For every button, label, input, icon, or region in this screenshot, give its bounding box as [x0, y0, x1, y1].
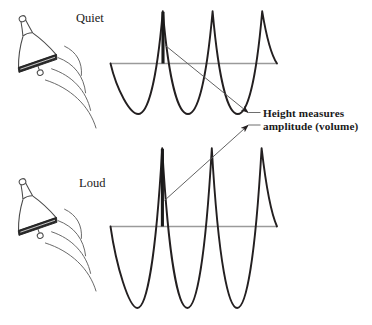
amplitude-callout-line1: Height measures: [263, 107, 358, 120]
diagram-artwork: [0, 0, 372, 325]
amplitude-callout: Height measures amplitude (volume): [263, 107, 358, 133]
quiet-label: Quiet: [76, 11, 104, 26]
loud-label: Loud: [79, 176, 105, 191]
loud-callout-arrow: [165, 125, 249, 200]
bell-clapper-ball-icon: [36, 232, 43, 239]
bell-handle-ring-icon: [18, 15, 26, 23]
bell-collar-icon: [22, 32, 33, 37]
bell-rim-highlight-icon: [20, 57, 55, 69]
figure-canvas: Quiet Loud Height measures amplitude (vo…: [0, 0, 372, 325]
bell-collar-icon: [22, 195, 33, 200]
bell-icon: [2, 9, 61, 82]
quiet-panel: [2, 9, 277, 128]
quiet-waveform: [111, 11, 278, 114]
loud-waveform: [111, 148, 278, 308]
bell-rim-highlight-icon: [20, 220, 55, 232]
bell-clapper-ball-icon: [36, 69, 43, 76]
loud-panel: [2, 125, 277, 308]
bell-handle-ring-icon: [18, 178, 26, 186]
bell-icon: [2, 172, 61, 245]
amplitude-callout-line2: amplitude (volume): [263, 120, 358, 133]
